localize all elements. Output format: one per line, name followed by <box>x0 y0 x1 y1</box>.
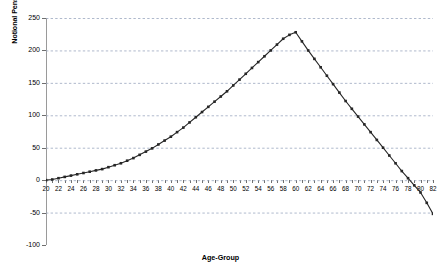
y-tick-label: -100 <box>10 241 40 248</box>
data-point-marker <box>151 147 154 150</box>
data-point-marker <box>46 179 47 182</box>
data-point-marker <box>70 174 73 177</box>
data-point-marker <box>138 154 141 157</box>
data-point-marker <box>132 157 135 160</box>
data-point-marker <box>207 106 210 109</box>
data-point-marker <box>276 43 279 46</box>
data-point-marker <box>213 100 216 103</box>
data-point-marker <box>113 164 116 167</box>
y-tick-mark <box>42 245 46 246</box>
data-point-marker <box>170 135 173 138</box>
data-point-marker <box>182 126 185 129</box>
data-point-marker <box>126 159 129 162</box>
data-point-marker <box>57 177 60 180</box>
data-point-marker <box>425 202 428 205</box>
x-tick-mark <box>433 180 434 183</box>
data-point-marker <box>176 131 179 134</box>
y-tick-label: 0 <box>10 176 40 183</box>
data-point-marker <box>51 178 54 181</box>
data-point-marker <box>120 162 123 165</box>
data-point-marker <box>201 111 204 114</box>
data-point-marker <box>63 176 66 179</box>
data-point-marker <box>82 172 85 175</box>
data-point-marker <box>219 95 222 98</box>
data-point-marker <box>400 170 403 173</box>
data-point-marker <box>101 168 104 171</box>
data-point-marker <box>376 139 379 142</box>
series-markers <box>46 31 433 215</box>
data-point-marker <box>269 49 272 52</box>
data-point-marker <box>163 139 166 142</box>
data-point-marker <box>351 108 354 111</box>
data-point-marker <box>338 91 341 94</box>
data-point-marker <box>332 83 335 86</box>
data-point-marker <box>188 121 191 124</box>
data-point-marker <box>407 177 410 180</box>
data-point-marker <box>363 123 366 126</box>
data-point-marker <box>294 31 297 34</box>
data-point-marker <box>244 72 247 75</box>
data-point-marker <box>257 61 260 64</box>
data-point-marker <box>307 49 310 52</box>
y-tick-label: 200 <box>10 46 40 53</box>
data-point-marker <box>95 169 98 172</box>
data-point-marker <box>76 173 79 176</box>
data-point-marker <box>326 74 329 77</box>
data-point-marker <box>432 213 433 216</box>
y-tick-label: 50 <box>10 144 40 151</box>
data-point-marker <box>419 191 422 194</box>
data-point-marker <box>107 166 110 169</box>
clipped-caption <box>28 0 328 6</box>
data-point-marker <box>88 170 91 173</box>
chart-container: Notional Pension Wealth ('1000 Euro) Age… <box>0 0 441 274</box>
data-point-marker <box>388 154 391 157</box>
series-line <box>46 32 433 214</box>
data-point-marker <box>313 58 316 61</box>
data-point-marker <box>301 40 304 43</box>
data-point-marker <box>369 131 372 134</box>
data-point-marker <box>394 162 397 165</box>
data-point-marker <box>413 184 416 187</box>
data-point-marker <box>145 150 148 153</box>
y-tick-label: 100 <box>10 111 40 118</box>
data-point-marker <box>344 100 347 103</box>
data-point-marker <box>238 78 241 81</box>
data-point-marker <box>263 55 266 58</box>
y-tick-label: 150 <box>10 79 40 86</box>
data-series-notional-pension-wealth <box>46 31 433 215</box>
data-point-marker <box>232 84 235 87</box>
gridlines <box>46 19 433 246</box>
data-point-marker <box>251 67 254 70</box>
data-point-marker <box>319 66 322 69</box>
data-point-marker <box>382 146 385 149</box>
data-point-marker <box>282 37 285 40</box>
data-point-marker <box>157 143 160 146</box>
y-tick-label: -50 <box>10 209 40 216</box>
data-point-marker <box>195 116 198 119</box>
data-point-marker <box>226 90 229 93</box>
plot-area <box>46 18 433 245</box>
data-point-marker <box>357 115 360 118</box>
y-tick-label: 250 <box>10 14 40 21</box>
data-point-marker <box>288 34 291 37</box>
x-axis-title: Age-Group <box>0 253 441 262</box>
